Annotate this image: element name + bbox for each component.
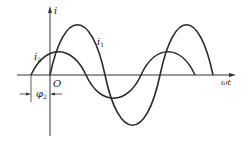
phase-label: φ2 xyxy=(36,89,47,100)
curve-label-i1: i1 xyxy=(97,37,104,48)
y-axis-label: i xyxy=(54,6,57,16)
diagram-canvas xyxy=(0,0,247,145)
waveform-diagram: i O ωt i1 i2 φ2 xyxy=(0,0,247,145)
y-axis-arrow-icon xyxy=(48,6,52,13)
x-axis-arrow-icon xyxy=(229,73,236,77)
curve-label-i2: i2 xyxy=(34,52,41,63)
x-axis-label: ωt xyxy=(221,79,231,87)
origin-label: O xyxy=(53,79,61,89)
arrow-right-icon xyxy=(26,93,31,96)
arrow-left-icon xyxy=(50,93,55,96)
